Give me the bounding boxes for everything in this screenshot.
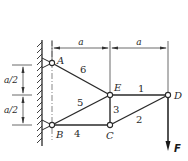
member-label-1: 1	[138, 83, 144, 94]
joint-a	[49, 60, 54, 65]
dimension-a-half-2: a/2	[4, 105, 18, 115]
force-label: F	[174, 143, 181, 154]
load-arrow	[166, 98, 171, 151]
joint-b	[49, 122, 54, 127]
node-label-e: E	[113, 82, 122, 93]
node-label-a: A	[56, 55, 64, 66]
member-label-3: 3	[113, 104, 119, 115]
member-label-2: 2	[136, 114, 142, 125]
dimension-a-half-1: a/2	[4, 75, 18, 85]
node-label-b: B	[55, 129, 63, 140]
horizontal-dimensions	[52, 41, 168, 92]
joint-d	[165, 92, 170, 97]
dimension-a-2: a	[136, 37, 141, 47]
node-label-d: D	[173, 90, 182, 101]
dimension-a-1: a	[78, 37, 83, 47]
node-label-c: C	[106, 130, 114, 141]
member-label-5: 5	[77, 97, 83, 108]
truss-diagram: a a a/2 a/2 6 5 4 3 1 2 F	[0, 0, 188, 161]
joint-c	[107, 122, 112, 127]
joint-e	[107, 92, 112, 97]
member-label-6: 6	[80, 64, 86, 75]
member-label-4: 4	[74, 128, 80, 139]
vertical-dimensions	[12, 65, 32, 125]
wall-support	[37, 40, 42, 146]
